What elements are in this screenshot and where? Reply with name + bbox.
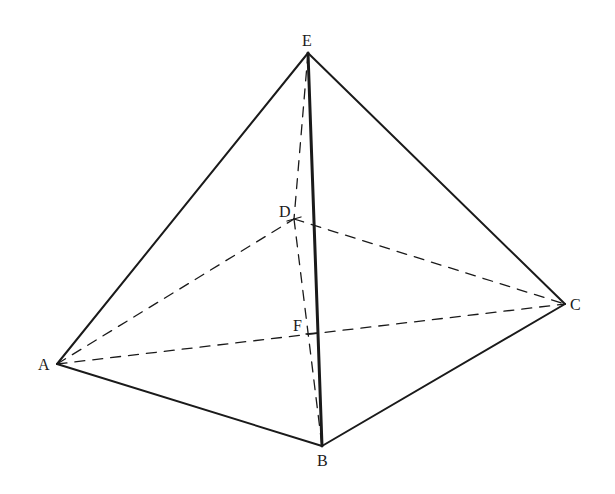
pyramid-drawing [0, 0, 615, 494]
edge-EC [308, 53, 565, 304]
edge-AB [57, 364, 322, 446]
edge-DC [294, 219, 565, 304]
vertex-label-A: A [38, 357, 50, 373]
vertex-label-D: D [279, 204, 291, 220]
edge-ED [294, 53, 308, 219]
vertex-label-E: E [302, 33, 312, 49]
vertex-label-F: F [293, 318, 302, 334]
vertex-label-B: B [317, 453, 328, 469]
edge-EA [57, 53, 308, 364]
edge-BC [322, 304, 565, 446]
edge-AD [57, 219, 294, 364]
pyramid-diagram: E D F A B C [0, 0, 615, 494]
vertex-label-C: C [570, 297, 581, 313]
